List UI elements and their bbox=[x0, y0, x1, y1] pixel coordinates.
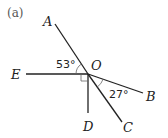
angle-label-BOC: 27° bbox=[109, 88, 129, 101]
angle-arc-AOE bbox=[76, 64, 81, 74]
angle-arc-BOC bbox=[97, 79, 103, 87]
part-label: (a) bbox=[7, 6, 24, 20]
label-O: O bbox=[91, 58, 102, 73]
angle-label-AOE: 53° bbox=[56, 58, 76, 71]
label-D: D bbox=[82, 119, 94, 134]
label-B: B bbox=[145, 89, 156, 104]
angle-diagram: (a) A E D C B O 53° 27° bbox=[0, 0, 168, 138]
label-E: E bbox=[10, 67, 21, 82]
label-A: A bbox=[42, 14, 52, 29]
label-C: C bbox=[123, 120, 133, 135]
right-angle-marker bbox=[81, 74, 88, 81]
